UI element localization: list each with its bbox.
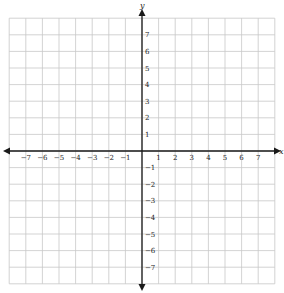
x-tick-label: 6 [239, 154, 244, 162]
x-tick-label: −7 [21, 154, 31, 162]
y-axis-bottom-arrow-icon [139, 284, 146, 291]
x-tick-label: 1 [156, 154, 160, 162]
x-tick-label: 3 [190, 154, 194, 162]
y-tick-label: −3 [145, 197, 155, 205]
x-axis-label: x [279, 147, 284, 156]
x-tick-label: −3 [87, 154, 97, 162]
x-tick-label: −6 [37, 154, 48, 162]
x-tick-label: −4 [70, 154, 81, 162]
x-tick-label: 7 [256, 154, 260, 162]
y-tick-label: −2 [145, 181, 155, 189]
y-tick-label: 1 [145, 131, 149, 139]
x-tick-label: −2 [104, 154, 114, 162]
y-axis-top-arrow-icon [139, 9, 146, 16]
y-tick-label: −6 [145, 247, 156, 255]
y-tick-label: 3 [145, 98, 149, 106]
y-tick-label: 4 [145, 81, 150, 89]
x-tick-label: −1 [120, 154, 130, 162]
y-tick-label: −1 [145, 164, 155, 172]
y-tick-label: 6 [145, 48, 150, 56]
x-tick-label: −5 [54, 154, 64, 162]
y-tick-label: 7 [145, 31, 149, 39]
x-tick-labels: −7−6−5−4−3−2−11234567 [21, 154, 261, 162]
x-tick-label: 4 [206, 154, 211, 162]
y-tick-label: 2 [145, 114, 149, 122]
y-tick-label: −5 [145, 231, 155, 239]
y-tick-label: −7 [145, 264, 155, 272]
y-tick-label: −4 [145, 214, 156, 222]
x-axis-left-arrow-icon [3, 148, 10, 155]
x-tick-label: 2 [173, 154, 177, 162]
y-axis-label: y [139, 1, 145, 10]
x-tick-label: 5 [223, 154, 227, 162]
y-tick-label: 5 [145, 65, 149, 73]
coordinate-plane: x y −7−6−5−4−3−2−11234567 7654321−1−2−3−… [0, 0, 284, 293]
